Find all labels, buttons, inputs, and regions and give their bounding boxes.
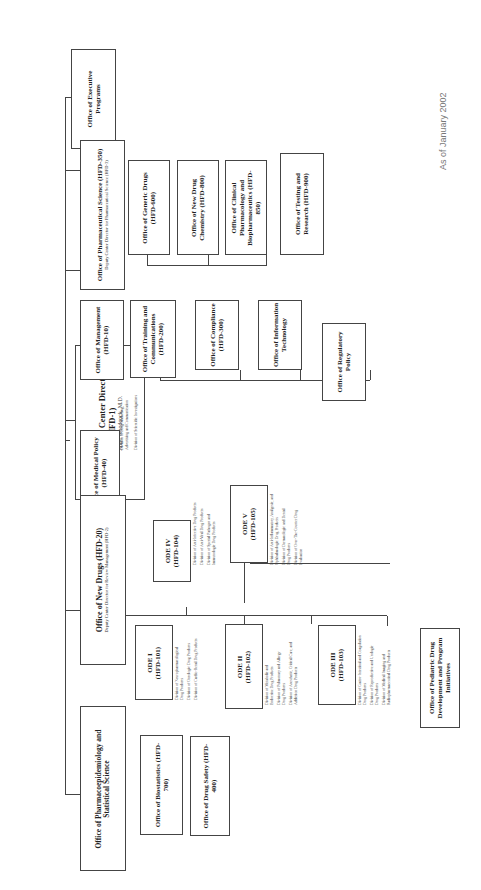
ode4-division: Division of Anti-Infective Drug Products <box>193 503 198 565</box>
info-tech-box[interactable]: Office of Information Technology <box>258 300 302 370</box>
connector <box>186 607 187 615</box>
biostat-label: Office of Biostatistics (HFD-700) <box>154 740 170 830</box>
management-box[interactable]: Office of Management (HFD-10) <box>80 300 124 380</box>
ode3-title: ODE III <box>329 649 337 681</box>
ode3-division: Division of Medical Imaging and Radiopha… <box>382 625 391 705</box>
generic-drugs-box[interactable]: Office of Generic Drugs (HFD-600) <box>128 160 170 255</box>
ode5-title: ODE V <box>241 508 249 540</box>
ode5-division: Division of Anti-Inflammatory, Analgesic… <box>270 475 279 565</box>
division-drug-marketing: Division of Drug Marketing, Advertising … <box>120 390 129 450</box>
ode2-division: Division of Anesthetic, Critical Care, a… <box>289 630 298 705</box>
training-box[interactable]: Office of Training and Communications (H… <box>130 300 176 378</box>
reg-policy-label: Office of Regulatory Policy <box>336 330 352 395</box>
as-of-date: As of January 2002 <box>438 92 448 170</box>
ode-i-box[interactable]: ODE I(HFD-101) <box>135 625 173 700</box>
regulatory-policy-box[interactable]: Office of Regulatory Policy <box>322 323 366 401</box>
pharm-sci-title: Office of Pharmaceutical Science (HFD-35… <box>96 145 104 285</box>
info-tech-label: Office of Information Technology <box>272 303 288 368</box>
ode-ii-box[interactable]: ODE II(HFD-102) <box>225 624 263 709</box>
clinical-pharmacology-box[interactable]: Office of Clinical Pharmacology and Biop… <box>225 160 267 255</box>
pharmacoepidemiology-box[interactable]: Office of Pharmacoepidemiology and Stati… <box>80 706 126 871</box>
connector <box>65 440 70 441</box>
ode-iii-box[interactable]: ODE III(HFD-103) <box>318 625 356 705</box>
pediatric-label: Office of Pediatric Drug Development and… <box>428 633 452 723</box>
ode3-division: Division of Gastro-Intestinal and Coagul… <box>358 630 367 705</box>
generic-label: Office of Generic Drugs (HFD-600) <box>141 168 157 248</box>
ode1-division: Division of Cardio-Renal Drug Products <box>194 638 199 700</box>
ode4-code: (HFD-104) <box>172 535 180 567</box>
new-drugs-sub: Deputy Center Director for Review Manage… <box>104 527 110 632</box>
ode2-title: ODE II <box>236 650 244 682</box>
new-drugs-box[interactable]: Office of New Drugs (HFD-20) Deputy Cent… <box>80 495 126 665</box>
connector <box>66 270 80 271</box>
testing-research-box[interactable]: Office of Testing and Research (HFD-900) <box>280 153 324 255</box>
connector <box>300 370 301 380</box>
ode1-code: (HFD-101) <box>154 646 162 678</box>
connector <box>240 370 241 380</box>
connector <box>65 97 66 794</box>
compliance-box[interactable]: Office of Compliance (HFD-300) <box>195 300 239 370</box>
ode1-division: Division of Neuropharmacological Drug Pr… <box>175 640 184 700</box>
ode3-division: Division of Reproductive and Urologic Dr… <box>370 645 379 705</box>
ode3-code: (HFD-103) <box>337 649 345 681</box>
connector <box>66 170 80 171</box>
connector <box>311 616 312 624</box>
compliance-label: Office of Compliance (HFD-300) <box>209 303 225 368</box>
management-label: Office of Management (HFD-10) <box>94 305 110 375</box>
connector <box>147 255 148 265</box>
pharm-sci-sub: Deputy Center Director for Pharmaceutica… <box>104 145 110 285</box>
training-label: Office of Training and Communications (H… <box>141 304 165 374</box>
connector <box>66 610 80 611</box>
division-sci-investigations: Division of Scientific Investigations <box>134 395 139 450</box>
clin-pharm-label: Office of Clinical Pharmacology and Biop… <box>230 165 262 250</box>
connector <box>65 794 81 795</box>
ode4-title: ODE IV <box>164 535 172 567</box>
connector <box>370 370 371 380</box>
connector <box>244 616 245 624</box>
ode2-division: Division of Metabolic and Endocrine Drug… <box>265 650 274 705</box>
ode2-code: (HFD-102) <box>244 650 252 682</box>
new-drugs-title: Office of New Drugs (HFD-20) <box>96 527 104 632</box>
biostatistics-box[interactable]: Office of Biostatistics (HFD-700) <box>140 735 183 835</box>
connector <box>244 563 245 603</box>
connector <box>125 615 387 616</box>
ode4-division: Division of Anti-Viral Drug Products <box>200 508 205 565</box>
ode1-division: Division of Oncologic Drug Products <box>187 643 192 700</box>
ode1-title: ODE I <box>146 646 154 678</box>
ode5-division: Division of Dermatologic and Dental Drug… <box>282 505 291 565</box>
executive-programs-box[interactable]: Office of Executive Programs <box>71 49 116 149</box>
pharmacoepi-label: Office of Pharmacoepidemiology and Stati… <box>95 724 111 854</box>
ode2-division: Division of Pulmonary and Allergy Drug P… <box>277 650 286 705</box>
ode-iv-box[interactable]: ODE IV(HFD-104) <box>153 520 191 582</box>
drug-safety-label: Office of Drug Safety (HFD-400) <box>202 741 218 831</box>
connector <box>147 265 267 266</box>
ode5-division: Division of Over-The-Counter Drug Evalua… <box>294 505 303 565</box>
pediatric-box[interactable]: Office of Pediatric Drug Development and… <box>420 628 460 728</box>
connector <box>208 255 209 265</box>
ode4-division: Division of Special Pathogen and Immunol… <box>207 495 216 565</box>
ode5-code: (HFD-105) <box>249 508 257 540</box>
executive-label: Office of Executive Programs <box>86 64 102 134</box>
testing-label: Office of Testing and Research (HFD-900) <box>294 164 310 244</box>
connector <box>266 255 267 265</box>
new-drug-chemistry-box[interactable]: Office of New Drug Chemistry (HFD-800) <box>177 160 219 255</box>
pharmaceutical-science-box[interactable]: Office of Pharmaceutical Science (HFD-35… <box>80 140 125 290</box>
drug-safety-box[interactable]: Office of Drug Safety (HFD-400) <box>190 736 230 836</box>
new-drug-chem-label: Office of New Drug Chemistry (HFD-800) <box>190 168 206 248</box>
ode-v-box[interactable]: ODE V(HFD-105) <box>230 485 268 563</box>
